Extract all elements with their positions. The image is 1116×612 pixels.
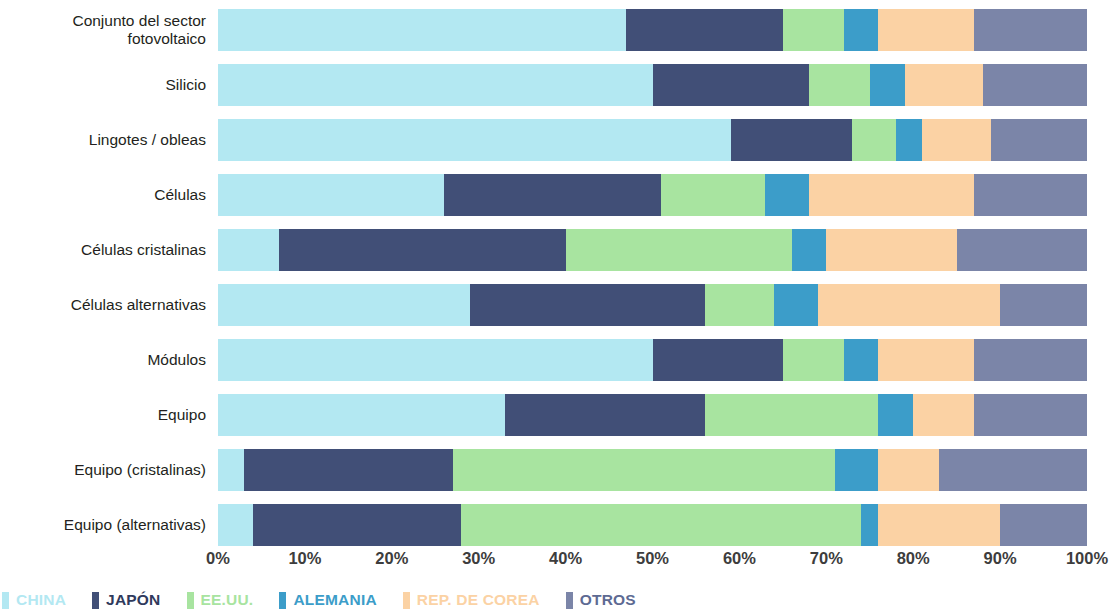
bar-segment-ee-uu <box>705 394 879 436</box>
bar-segment-china <box>218 119 731 161</box>
bar-segment-jap-n <box>279 229 566 271</box>
bar-segment-rep-de-corea <box>905 64 983 106</box>
category-label: Equipo (cristalinas) <box>0 461 218 479</box>
bar-segment-rep-de-corea <box>826 229 956 271</box>
bar-segment-ee-uu <box>705 284 775 326</box>
bar-segment-ee-uu <box>783 339 844 381</box>
bar-segment-otros <box>991 119 1087 161</box>
bar-segment-rep-de-corea <box>878 339 974 381</box>
bar-row: Equipo (alternativas) <box>0 498 1116 553</box>
legend-swatch-icon <box>187 592 194 609</box>
category-label: Silicio <box>0 76 218 94</box>
legend-swatch-icon <box>403 592 410 609</box>
x-axis-tick-label: 80% <box>868 549 958 568</box>
bar-segment-rep-de-corea <box>878 9 974 51</box>
bar-segment-alemania <box>774 284 817 326</box>
bar-segment-otros <box>1000 284 1087 326</box>
x-axis: 0%10%20%30%40%50%60%70%80%90%100% <box>0 549 1116 575</box>
bar-row: Módulos <box>0 333 1116 388</box>
bar-segment-china <box>218 504 253 546</box>
legend-item[interactable]: EE.UU. <box>187 591 254 609</box>
bar-track <box>218 174 1087 216</box>
bar-track <box>218 229 1087 271</box>
bar-segment-otros <box>957 229 1087 271</box>
legend-item[interactable]: ALEMANIA <box>279 591 376 609</box>
bar-segment-jap-n <box>626 9 782 51</box>
legend-swatch-icon <box>279 592 286 609</box>
bar-segment-otros <box>974 9 1087 51</box>
x-axis-tick-label: 90% <box>955 549 1045 568</box>
x-axis-tick-label: 30% <box>434 549 524 568</box>
legend-label: EE.UU. <box>201 591 254 609</box>
bar-segment-alemania <box>878 394 913 436</box>
bar-track <box>218 64 1087 106</box>
bar-segment-rep-de-corea <box>818 284 1000 326</box>
category-label: Células cristalinas <box>0 241 218 259</box>
category-label: Equipo <box>0 406 218 424</box>
bar-track <box>218 339 1087 381</box>
bar-segment-china <box>218 449 244 491</box>
bar-segment-jap-n <box>244 449 453 491</box>
legend-label: JAPÓN <box>106 591 160 609</box>
bar-segment-china <box>218 64 653 106</box>
bar-segment-ee-uu <box>852 119 895 161</box>
bar-segment-alemania <box>844 9 879 51</box>
bar-segment-otros <box>974 174 1087 216</box>
bar-segment-ee-uu <box>661 174 765 216</box>
bar-row: Lingotes / obleas <box>0 113 1116 168</box>
bar-segment-ee-uu <box>461 504 861 546</box>
legend-item[interactable]: OTROS <box>566 591 636 609</box>
bar-segment-alemania <box>896 119 922 161</box>
bar-segment-jap-n <box>653 64 809 106</box>
bar-segment-ee-uu <box>566 229 792 271</box>
legend-item[interactable]: JAPÓN <box>92 591 160 609</box>
bar-row: Conjunto del sector fotovoltaico <box>0 3 1116 58</box>
bar-segment-rep-de-corea <box>809 174 974 216</box>
legend-item[interactable]: REP. DE COREA <box>403 591 540 609</box>
legend-label: REP. DE COREA <box>417 591 540 609</box>
bar-segment-china <box>218 284 470 326</box>
bar-track <box>218 394 1087 436</box>
x-axis-tick-label: 70% <box>781 549 871 568</box>
bar-segment-alemania <box>765 174 808 216</box>
bar-segment-alemania <box>792 229 827 271</box>
bar-segment-china <box>218 174 444 216</box>
bar-track <box>218 9 1087 51</box>
legend-swatch-icon <box>92 592 99 609</box>
bar-segment-china <box>218 394 505 436</box>
plot-area: Conjunto del sector fotovoltaicoSilicioL… <box>0 0 1116 545</box>
bar-segment-jap-n <box>444 174 661 216</box>
bar-segment-china <box>218 229 279 271</box>
legend-label: OTROS <box>580 591 636 609</box>
bar-segment-rep-de-corea <box>913 394 974 436</box>
bar-track <box>218 449 1087 491</box>
x-axis-tick-label: 20% <box>347 549 437 568</box>
bar-segment-jap-n <box>505 394 705 436</box>
x-axis-tick-label: 0% <box>173 549 263 568</box>
legend-swatch-icon <box>2 592 9 609</box>
bar-segment-jap-n <box>731 119 853 161</box>
bar-row: Equipo (cristalinas) <box>0 443 1116 498</box>
bar-segment-otros <box>974 394 1087 436</box>
bar-row: Células alternativas <box>0 278 1116 333</box>
x-axis-tick-label: 10% <box>260 549 350 568</box>
bar-segment-otros <box>1000 504 1087 546</box>
bar-segment-rep-de-corea <box>878 504 1000 546</box>
bar-row: Silicio <box>0 58 1116 113</box>
bar-segment-alemania <box>870 64 905 106</box>
x-axis-tick-label: 60% <box>694 549 784 568</box>
category-label: Módulos <box>0 351 218 369</box>
bar-segment-china <box>218 339 653 381</box>
bar-segment-otros <box>974 339 1087 381</box>
legend-item[interactable]: CHINA <box>2 591 66 609</box>
bar-segment-rep-de-corea <box>878 449 939 491</box>
bar-row: Células cristalinas <box>0 223 1116 278</box>
x-axis-tick-label: 50% <box>608 549 698 568</box>
category-label: Equipo (alternativas) <box>0 516 218 534</box>
stacked-bar-chart: Conjunto del sector fotovoltaicoSilicioL… <box>0 0 1116 612</box>
bar-segment-jap-n <box>653 339 783 381</box>
x-axis-tick-label: 100% <box>1042 549 1116 568</box>
bar-segment-alemania <box>861 504 878 546</box>
bar-segment-jap-n <box>253 504 462 546</box>
category-label: Células <box>0 186 218 204</box>
